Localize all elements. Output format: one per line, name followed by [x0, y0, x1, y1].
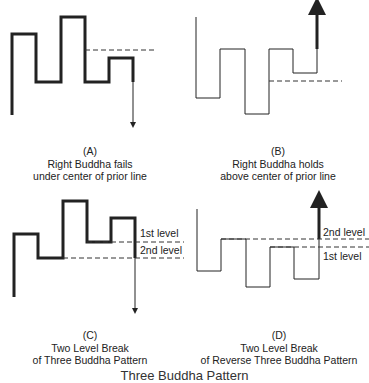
panel-d-chart: [197, 199, 369, 287]
panel-c-line1: Two Level Break: [20, 342, 160, 355]
panel-a-chart: [12, 17, 157, 125]
panel-a-step-line: [12, 17, 133, 115]
panel-b-caption: (B) Right Buddha holds above center of p…: [208, 145, 348, 183]
panel-a-letter: (A): [20, 145, 160, 158]
panel-c-chart: [14, 201, 184, 311]
panel-d-letter: (D): [194, 329, 364, 342]
panel-c-step-line: [14, 201, 135, 297]
panel-c-second-level-label: 2nd level: [140, 244, 182, 256]
panel-b-letter: (B): [208, 145, 348, 158]
panel-c-line2: of Three Buddha Pattern: [20, 354, 160, 367]
panel-c-caption: (C) Two Level Break of Three Buddha Patt…: [20, 329, 160, 367]
panel-b-line2: above center of prior line: [208, 170, 348, 183]
panel-a-line2: under center of prior line: [20, 170, 160, 183]
panel-c-letter: (C): [20, 329, 160, 342]
panel-a-line1: Right Buddha fails: [20, 158, 160, 171]
panel-d-second-level-label: 2nd level: [323, 226, 365, 238]
panel-d-caption: (D) Two Level Break of Reverse Three Bud…: [194, 329, 364, 367]
panel-b-chart: [196, 6, 342, 114]
panel-b-step-line: [196, 17, 317, 114]
panel-c-first-level-label: 1st level: [140, 227, 179, 239]
panel-d-first-level-label: 1st level: [323, 250, 362, 262]
panel-b-line1: Right Buddha holds: [208, 158, 348, 171]
panel-d-line1: Two Level Break: [194, 342, 364, 355]
panel-d-line2: of Reverse Three Buddha Pattern: [194, 354, 364, 367]
figure-title-partial: Three Buddha Pattern: [0, 368, 369, 383]
panel-a-caption: (A) Right Buddha fails under center of p…: [20, 145, 160, 183]
panel-d-step-line: [197, 209, 319, 287]
